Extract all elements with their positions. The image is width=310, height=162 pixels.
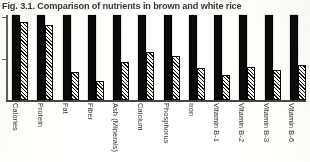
category-label-text: Calcium [136,103,144,130]
category-axis-labels: CaloriesProteinFatFiberAsh (Minerals)Cal… [6,103,300,161]
category-label-text: Vitamin B-1 [212,103,220,142]
bar-brown-rice [113,15,121,100]
bar-group [113,15,129,100]
category-label: Fiber [82,103,99,161]
bar-group [88,15,104,100]
category-label-text: Fat [61,103,69,114]
y-axis [6,15,8,100]
category-label-text: Fiber [86,103,94,120]
bar-brown-rice [88,15,96,100]
category-label: Calories [6,103,23,161]
bar-brown-rice [138,15,146,100]
bar-group [37,15,53,100]
category-label: Calcium [132,103,149,161]
category-label-text: Vitamin B-2 [237,103,245,142]
category-label-text: Vitamin B-3 [262,103,270,142]
category-label-text: Phosphorus [162,103,170,143]
bar-white-rice [20,22,28,100]
category-label: Vitamin B-1 [207,103,224,161]
bar-white-rice [298,65,306,100]
bar-brown-rice [214,15,222,100]
category-label-text: Iron [187,103,195,116]
category-label-text: Vitamin B-6 [287,103,295,142]
bar-white-rice [222,75,230,101]
bar-brown-rice [37,15,45,100]
category-label: Vitamin B-2 [233,103,250,161]
bar-white-rice [197,68,205,100]
category-label: Vitamin B-6 [283,103,300,161]
bar-white-rice [172,56,180,100]
bar-group [290,15,306,100]
figure-caption: Fig. 3.1. Comparison of nutrients in bro… [2,0,310,13]
bar-white-rice [96,81,104,100]
category-label-text: Protein [36,103,44,127]
bar-group [12,15,28,100]
y-axis-tick-top [2,17,8,18]
bar-white-rice [45,25,53,100]
category-label: Vitamin B-3 [258,103,275,161]
category-label-text: Ash (Minerals) [111,103,119,152]
bar-brown-rice [290,15,298,100]
category-label: Fat [56,103,73,161]
bar-brown-rice [12,15,20,100]
bar-white-rice [247,67,255,100]
bar-group [63,15,79,100]
category-label: Phosphorus [157,103,174,161]
bar-white-rice [146,52,154,100]
figure-container: Fig. 3.1. Comparison of nutrients in bro… [0,0,310,162]
bar-group [239,15,255,100]
bar-group [164,15,180,100]
bar-group [138,15,154,100]
bar-series-group [12,15,306,100]
bar-group [189,15,205,100]
plot-area [6,13,306,101]
y-axis-tick-mid [2,59,8,60]
bar-brown-rice [239,15,247,100]
category-label: Ash (Minerals) [107,103,124,161]
bar-brown-rice [189,15,197,100]
bar-white-rice [273,70,281,100]
category-label: Protein [31,103,48,161]
bar-group [214,15,230,100]
category-label: Iron [182,103,199,161]
bar-brown-rice [63,15,71,100]
bar-group [265,15,281,100]
bar-white-rice [121,62,129,100]
x-axis-baseline [6,100,306,102]
category-label-text: Calories [11,103,19,131]
bar-brown-rice [164,15,172,100]
bar-white-rice [71,72,79,100]
bar-brown-rice [265,15,273,100]
